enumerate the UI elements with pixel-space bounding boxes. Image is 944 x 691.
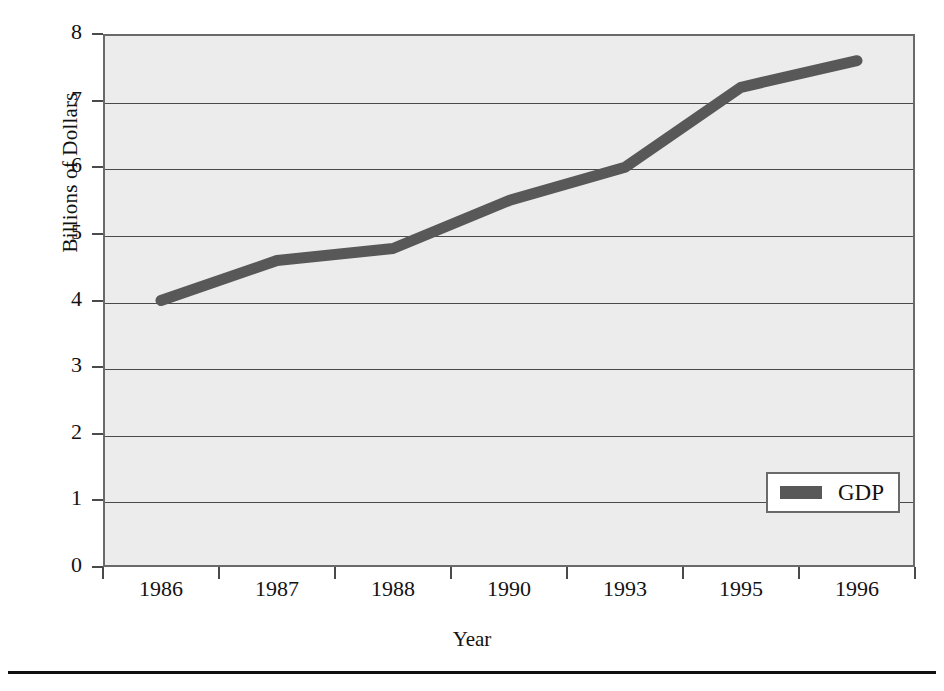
y-tick-mark — [92, 33, 103, 35]
chart-figure: Billions of Dollars 012345678 1986198719… — [0, 0, 944, 691]
x-tick-label: 1988 — [333, 578, 453, 600]
chart-legend: GDP — [766, 472, 900, 513]
y-tick-label: 4 — [40, 288, 82, 310]
legend-swatch-gdp — [780, 486, 822, 499]
bottom-rule — [8, 671, 936, 674]
x-tick-label: 1986 — [101, 578, 221, 600]
x-tick-mark — [914, 567, 916, 579]
y-tick-mark — [92, 499, 103, 501]
y-tick-mark — [92, 300, 103, 302]
series-line-gdp — [161, 61, 857, 301]
y-tick-mark — [92, 100, 103, 102]
x-tick-label: 1990 — [449, 578, 569, 600]
x-tick-mark — [334, 567, 336, 579]
x-tick-label: 1995 — [681, 578, 801, 600]
x-axis-title: Year — [0, 627, 944, 652]
x-tick-mark — [682, 567, 684, 579]
x-tick-mark — [450, 567, 452, 579]
y-tick-mark — [92, 166, 103, 168]
x-tick-mark — [566, 567, 568, 579]
y-tick-label: 7 — [40, 88, 82, 110]
y-tick-label: 5 — [40, 221, 82, 243]
x-tick-label: 1987 — [217, 578, 337, 600]
y-tick-mark — [92, 433, 103, 435]
y-tick-mark — [92, 366, 103, 368]
legend-label-gdp: GDP — [838, 481, 884, 504]
y-tick-label: 6 — [40, 154, 82, 176]
y-tick-mark — [92, 233, 103, 235]
y-tick-label: 8 — [40, 21, 82, 43]
x-tick-mark — [102, 567, 104, 579]
y-tick-label: 3 — [40, 354, 82, 376]
y-tick-label: 2 — [40, 421, 82, 443]
y-tick-label: 0 — [40, 554, 82, 576]
y-tick-label: 1 — [40, 487, 82, 509]
x-tick-label: 1993 — [565, 578, 685, 600]
x-tick-mark — [218, 567, 220, 579]
x-tick-label: 1996 — [797, 578, 917, 600]
x-tick-mark — [798, 567, 800, 579]
